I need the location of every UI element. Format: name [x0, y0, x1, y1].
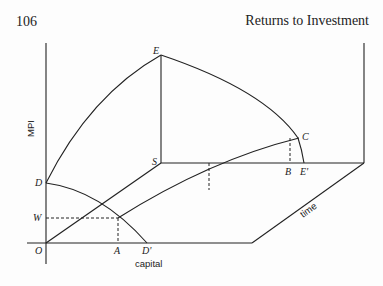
label-C: C [302, 131, 309, 142]
time-axis-label: time [298, 200, 319, 219]
label-E: E [152, 45, 159, 56]
capital-axis-label: capital [135, 258, 162, 269]
curve-DD-prime [46, 183, 147, 243]
curve-ECE-prime [161, 55, 304, 163]
mpi-axis-label: MPI [25, 120, 36, 137]
label-D: D [34, 177, 43, 188]
label-B: B [285, 166, 291, 177]
label-O: O [35, 245, 42, 256]
label-W: W [33, 212, 43, 223]
returns-diagram: E S C B E' D W O A D' MPI capital time [0, 0, 383, 286]
book-page: 106 Returns to Investment [0, 0, 383, 286]
curve-DE [46, 55, 161, 183]
label-A: A [113, 245, 121, 256]
label-E-prime: E' [299, 166, 309, 177]
label-D-prime: D' [141, 245, 152, 256]
label-S: S [152, 156, 157, 167]
